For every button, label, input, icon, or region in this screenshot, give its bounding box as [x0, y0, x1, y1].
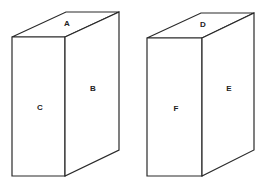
- left-box-side-face: [65, 12, 119, 176]
- right-box: [147, 13, 254, 176]
- label-c: C: [37, 104, 43, 112]
- left-box: [12, 12, 119, 176]
- boxes-drawing: [0, 0, 262, 189]
- label-b: B: [90, 85, 96, 93]
- label-d: D: [200, 21, 206, 29]
- label-e: E: [226, 85, 231, 93]
- diagram-canvas: A B C D E F: [0, 0, 262, 189]
- label-f: F: [174, 105, 179, 113]
- right-box-side-face: [202, 13, 254, 176]
- label-a: A: [64, 20, 70, 28]
